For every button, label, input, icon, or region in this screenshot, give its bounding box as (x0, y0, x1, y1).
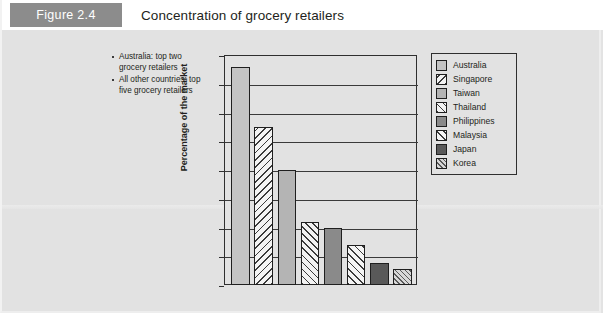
bar-philippines (324, 228, 343, 286)
bar-series (224, 56, 417, 285)
figure-number-tag: Figure 2.4 (10, 3, 122, 27)
list-item: Australia: top two grocery retailers (119, 52, 202, 73)
legend-swatch-malaysia (436, 130, 447, 141)
bar-chart (224, 55, 417, 285)
legend-item-malaysia: Malaysia (436, 128, 513, 142)
legend-label: Philippines (453, 116, 495, 126)
legend-swatch-australia (436, 60, 447, 71)
legend-item-philippines: Philippines (436, 114, 513, 128)
legend-swatch-japan (436, 144, 447, 155)
legend-swatch-philippines (436, 116, 447, 127)
bar-japan (370, 263, 389, 285)
legend-label: Australia (453, 60, 486, 70)
y-axis-title: Percentage of the market (179, 58, 190, 178)
legend-label: Korea (453, 158, 476, 168)
chart-legend: AustraliaSingaporeTaiwanThailandPhilippi… (431, 53, 517, 175)
legend-swatch-taiwan (436, 88, 447, 99)
legend-swatch-singapore (436, 74, 447, 85)
bar-thailand (301, 222, 320, 285)
legend-swatch-korea (436, 158, 447, 169)
legend-item-thailand: Thailand (436, 100, 513, 114)
y-axis-tick-mark (219, 286, 224, 287)
bar-korea (393, 269, 412, 285)
legend-item-australia: Australia (436, 58, 513, 72)
legend-label: Singapore (453, 74, 492, 84)
legend-item-taiwan: Taiwan (436, 86, 513, 100)
bar-taiwan (278, 170, 297, 285)
legend-item-singapore: Singapore (436, 72, 513, 86)
list-item: All other countries: top five grocery re… (119, 75, 202, 96)
bar-australia (231, 67, 250, 286)
legend-label: Thailand (453, 102, 486, 112)
legend-label: Malaysia (453, 130, 487, 140)
legend-label: Japan (453, 144, 476, 154)
figure-title: Concentration of grocery retailers (141, 3, 344, 27)
figure-header: Figure 2.4 Concentration of grocery reta… (2, 0, 603, 30)
legend-label: Taiwan (453, 88, 480, 98)
legend-item-japan: Japan (436, 142, 513, 156)
legend-swatch-thailand (436, 102, 447, 113)
bar-singapore (254, 127, 273, 285)
legend-item-korea: Korea (436, 156, 513, 170)
bar-malaysia (347, 245, 366, 285)
